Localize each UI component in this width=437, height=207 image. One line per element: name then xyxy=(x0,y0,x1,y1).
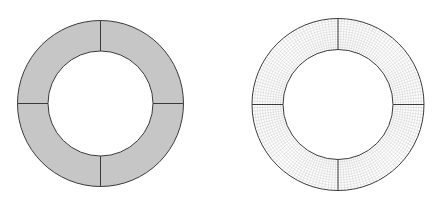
inner-boundary xyxy=(48,51,153,156)
annulus-figure xyxy=(0,0,437,207)
inner-boundary xyxy=(283,50,393,160)
solid-annulus-geometry xyxy=(18,20,184,186)
meshed-annulus xyxy=(252,19,424,191)
figure-canvas xyxy=(0,0,437,207)
